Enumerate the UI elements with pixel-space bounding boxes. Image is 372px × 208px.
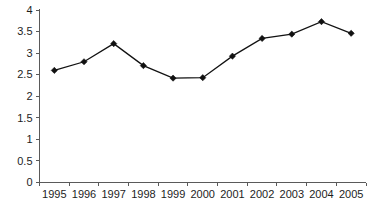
x-tick-label: 2003 [280, 188, 304, 200]
y-tick-label: 0.5 [17, 155, 32, 167]
line-chart: 00.511.522.533.54 1995199619971998199920… [0, 0, 372, 208]
data-point-marker [318, 19, 324, 25]
x-tick-label: 1999 [161, 188, 185, 200]
x-tick-label: 2005 [339, 188, 363, 200]
chart-canvas: 00.511.522.533.54 1995199619971998199920… [0, 0, 372, 208]
x-tick-label: 1998 [131, 188, 155, 200]
y-axis: 00.511.522.533.54 [17, 4, 39, 189]
x-tick-label: 2001 [220, 188, 244, 200]
y-tick-label: 2 [26, 90, 32, 102]
x-tick-label: 2002 [250, 188, 274, 200]
y-tick-label: 3.5 [17, 25, 32, 37]
y-tick-label: 1 [26, 133, 32, 145]
data-series-group [51, 19, 354, 82]
x-tick-labels: 1995199619971998199920002001200220032004… [42, 188, 363, 200]
y-tick-label: 2.5 [17, 68, 32, 80]
x-tick-label: 2000 [191, 188, 215, 200]
data-point-marker [289, 31, 295, 37]
y-tick-label: 3 [26, 47, 32, 59]
y-tick-label: 4 [26, 4, 32, 16]
series-line-1 [54, 22, 351, 79]
data-point-marker [259, 35, 265, 41]
y-tick-label: 0 [26, 176, 32, 188]
data-point-marker [51, 67, 57, 73]
x-tick-label: 1996 [72, 188, 96, 200]
x-axis: 1995199619971998199920002001200220032004… [40, 183, 367, 201]
y-tick-labels: 00.511.522.533.54 [17, 4, 32, 189]
data-point-marker [348, 30, 354, 36]
x-tick-label: 1997 [101, 188, 125, 200]
y-tick-label: 1.5 [17, 112, 32, 124]
data-point-marker [170, 75, 176, 81]
series-markers-1 [51, 19, 354, 82]
data-point-marker [81, 59, 87, 65]
x-tick-label: 1995 [42, 188, 66, 200]
x-tick-label: 2004 [309, 188, 333, 200]
